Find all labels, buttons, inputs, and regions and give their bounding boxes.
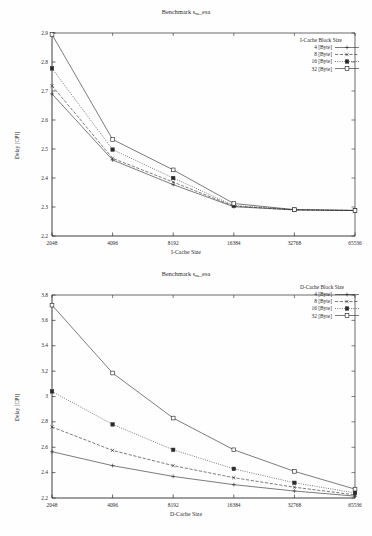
x-axis-tick-label: 8192	[156, 240, 190, 246]
legend-item-label: 16 [Byte]	[298, 305, 334, 311]
y-axis-tick-label: 2.4	[14, 175, 48, 181]
legend-item: 16 [Byte]	[298, 305, 360, 312]
x-axis-tick-label: 32768	[277, 240, 311, 246]
y-axis-tick-label: 3.2	[14, 368, 48, 374]
y-axis-tick-label: 2.2	[14, 233, 48, 239]
x-axis-label-dcache: D-Cache Size	[0, 511, 372, 517]
y-axis-tick-label: 2.9	[14, 30, 48, 36]
legend-item-label: 4 [Byte]	[298, 291, 334, 297]
x-axis-tick-label: 65536	[338, 240, 372, 246]
legend-rows-icache: 4 [Byte]8 [Byte]16 [Byte]32 [Byte]	[298, 44, 360, 73]
legend-title-dcache: D-Cache Block Size	[298, 284, 360, 290]
legend-icache: I-Cache Block Size 4 [Byte]8 [Byte]16 [B…	[298, 37, 360, 72]
legend-item-label: 8 [Byte]	[298, 51, 334, 57]
legend-item: 16 [Byte]	[298, 58, 360, 65]
legend-item-sample-plus-icon	[334, 291, 360, 298]
legend-item-sample-filled-square-icon	[334, 58, 360, 65]
y-axis-tick-label: 3.4	[14, 342, 48, 348]
y-axis-tick-label: 2.2	[14, 495, 48, 501]
x-axis-tick-label: 2048	[35, 240, 69, 246]
legend-item-sample-open-square-icon	[334, 65, 360, 72]
legend-item-sample-plus-icon	[334, 44, 360, 51]
y-axis-tick-label: 3	[14, 393, 48, 399]
legend-title-icache: I-Cache Block Size	[298, 37, 360, 43]
legend-item-sample-filled-square-icon	[334, 305, 360, 312]
figure-page: Benchmark sm_esa Delay [CPI] I-Cache Siz…	[0, 0, 372, 536]
x-axis-tick-label: 8192	[156, 502, 190, 508]
legend-item: 4 [Byte]	[298, 291, 360, 298]
y-axis-tick-label: 2.7	[14, 88, 48, 94]
legend-dcache: D-Cache Block Size 4 [Byte]8 [Byte]16 [B…	[298, 284, 360, 319]
x-axis-label-icache: I-Cache Size	[0, 249, 372, 255]
y-axis-tick-label: 2.6	[14, 444, 48, 450]
legend-item-label: 8 [Byte]	[298, 298, 334, 304]
legend-item: 32 [Byte]	[298, 312, 360, 319]
x-axis-tick-label: 16384	[217, 502, 251, 508]
x-axis-tick-label: 4096	[96, 240, 130, 246]
y-axis-tick-label: 3.6	[14, 317, 48, 323]
y-axis-tick-label: 2.8	[14, 59, 48, 65]
y-axis-tick-label: 2.4	[14, 469, 48, 475]
x-axis-tick-label: 2048	[35, 502, 69, 508]
chart-panel-icache: Benchmark sm_esa Delay [CPI] I-Cache Siz…	[0, 4, 372, 266]
y-axis-tick-label: 3.8	[14, 292, 48, 298]
legend-item: 8 [Byte]	[298, 298, 360, 305]
legend-item-sample-cross-icon	[334, 51, 360, 58]
legend-item-sample-cross-icon	[334, 298, 360, 305]
legend-rows-dcache: 4 [Byte]8 [Byte]16 [Byte]32 [Byte]	[298, 291, 360, 320]
x-axis-tick-label: 4096	[96, 502, 130, 508]
x-axis-tick-label: 65536	[338, 502, 372, 508]
y-axis-tick-label: 2.3	[14, 204, 48, 210]
legend-item-label: 32 [Byte]	[298, 313, 334, 319]
legend-item: 32 [Byte]	[298, 65, 360, 72]
x-axis-tick-label: 16384	[217, 240, 251, 246]
legend-item: 4 [Byte]	[298, 44, 360, 51]
legend-item-label: 4 [Byte]	[298, 44, 334, 50]
y-axis-tick-label: 2.5	[14, 146, 48, 152]
y-axis-tick-label: 2.8	[14, 418, 48, 424]
y-axis-tick-label: 2.6	[14, 117, 48, 123]
legend-item-sample-open-square-icon	[334, 312, 360, 319]
chart-panel-dcache: Benchmark sm_esa Delay [CPI] D-Cache Siz…	[0, 266, 372, 528]
legend-item-label: 32 [Byte]	[298, 66, 334, 72]
legend-item-label: 16 [Byte]	[298, 58, 334, 64]
x-axis-tick-label: 32768	[277, 502, 311, 508]
legend-item: 8 [Byte]	[298, 51, 360, 58]
